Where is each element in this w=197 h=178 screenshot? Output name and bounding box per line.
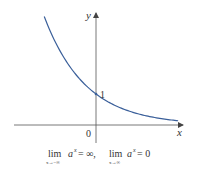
origin-label: 0 xyxy=(86,128,91,139)
lim2-value: = 0 xyxy=(137,148,150,159)
lim1-value: = ∞, xyxy=(78,148,96,159)
y-axis-label: y xyxy=(85,9,91,21)
series-line xyxy=(44,16,178,120)
y-intercept-label: 1 xyxy=(100,89,105,100)
lim1-subscript: x→−∞ xyxy=(46,160,60,165)
lim1-exponent: x xyxy=(73,147,77,153)
exponential-decay-chart: x y 0 1 lim x→−∞ a x = ∞, lim x→∞ a x = … xyxy=(0,0,197,178)
x-axis-label: x xyxy=(176,126,182,138)
lim1-base: a xyxy=(68,148,73,159)
y-intercept-point xyxy=(95,93,98,96)
lim2-word: lim xyxy=(109,148,123,159)
lim2-exponent: x xyxy=(132,147,136,153)
lim1-word: lim xyxy=(48,148,62,159)
lim2-subscript: x→∞ xyxy=(109,160,121,165)
caption: lim x→−∞ a x = ∞, lim x→∞ a x = 0 xyxy=(46,147,150,165)
lim2-base: a xyxy=(127,148,132,159)
